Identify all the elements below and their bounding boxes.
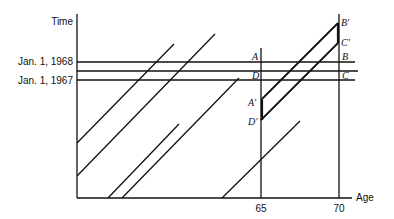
point-d: D: [251, 70, 260, 81]
point-b-prime: B′: [341, 17, 350, 28]
life-line: [77, 44, 174, 143]
x-tick-65: 65: [255, 203, 267, 214]
y-tick-1967: Jan. 1, 1967: [18, 75, 73, 86]
point-c: C: [342, 70, 349, 81]
point-b: B: [342, 51, 348, 62]
point-a: A: [251, 51, 259, 62]
lexis-diagram: Time Jan. 1, 1968 Jan. 1, 1967 Age 65 70…: [0, 0, 394, 219]
y-axis-label: Time: [51, 16, 73, 27]
line-d-prime-c-prime: [261, 43, 338, 120]
life-line: [122, 78, 239, 198]
x-axis-label: Age: [356, 192, 374, 203]
point-d-prime: D′: [247, 116, 258, 127]
point-c-prime: C′: [341, 37, 351, 48]
life-line: [77, 34, 215, 176]
life-line: [108, 124, 179, 198]
point-a-prime: A′: [247, 97, 257, 108]
x-tick-70: 70: [333, 203, 345, 214]
y-tick-1968: Jan. 1, 1968: [18, 56, 73, 67]
